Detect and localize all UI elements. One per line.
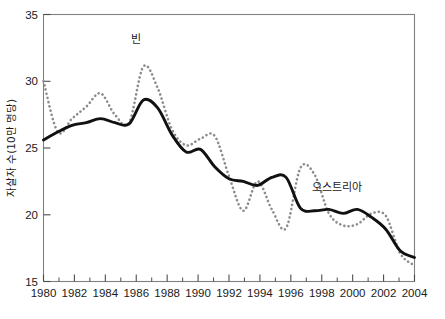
series-line-vienna: [44, 65, 415, 265]
x-axis-labels: 1980198219841986198819901992199419961998…: [31, 287, 428, 299]
series-label-austria: 오스트리아: [312, 181, 362, 194]
x-tick-label-1986: 1986: [123, 287, 149, 299]
y-axis-labels: 35 30 25 20 15: [25, 9, 38, 288]
x-tick-label-2000: 2000: [340, 287, 366, 299]
y-tick-label-25: 25: [25, 142, 38, 154]
x-tick-label-1984: 1984: [93, 287, 119, 299]
x-tick-label-1988: 1988: [154, 287, 180, 299]
series-layer: [44, 65, 415, 265]
y-tick-label-20: 20: [25, 209, 38, 221]
y-tick-label-30: 30: [25, 75, 38, 87]
chart-svg: 35 30 25 20 15 자살자 수(10만 명당) 19801982198…: [0, 0, 445, 319]
x-tick-label-1990: 1990: [185, 287, 211, 299]
x-axis-ticks: [44, 275, 415, 282]
series-label-vienna: 빈: [131, 33, 141, 46]
x-tick-label-1994: 1994: [247, 287, 273, 299]
suicide-rate-line-chart: 35 30 25 20 15 자살자 수(10만 명당) 19801982198…: [0, 0, 445, 319]
x-tick-label-1980: 1980: [31, 287, 57, 299]
x-tick-label-1998: 1998: [309, 287, 335, 299]
x-tick-label-1982: 1982: [62, 287, 88, 299]
x-tick-label-1992: 1992: [216, 287, 242, 299]
y-tick-label-15: 15: [25, 276, 38, 288]
series-line-austria: [44, 99, 415, 257]
y-axis-title: 자살자 수(10만 명당): [5, 99, 17, 197]
y-axis-ticks: [44, 15, 51, 282]
x-tick-label-2004: 2004: [402, 287, 428, 299]
x-tick-label-1996: 1996: [278, 287, 304, 299]
y-tick-label-35: 35: [25, 9, 38, 21]
plot-frame: [44, 15, 415, 282]
x-tick-label-2002: 2002: [371, 287, 397, 299]
